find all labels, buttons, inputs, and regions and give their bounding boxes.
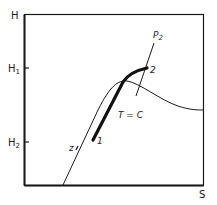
h2-label: H2 — [8, 137, 20, 150]
x-axis-label: S — [199, 189, 205, 200]
h1-label: H1 — [8, 63, 20, 76]
saturation-label: z — [68, 143, 74, 153]
hs-diagram: H H1 H2 S P2 2 1 T = C z — [0, 0, 217, 205]
point-2-label: 2 — [150, 65, 156, 75]
isotherm-label: T = C — [118, 110, 144, 120]
saturation-curve — [63, 81, 203, 185]
point-1-label: 1 — [97, 136, 103, 146]
arrow-mark — [76, 146, 78, 150]
y-axis-label: H — [11, 10, 19, 21]
isobar-label: P2 — [153, 30, 163, 42]
